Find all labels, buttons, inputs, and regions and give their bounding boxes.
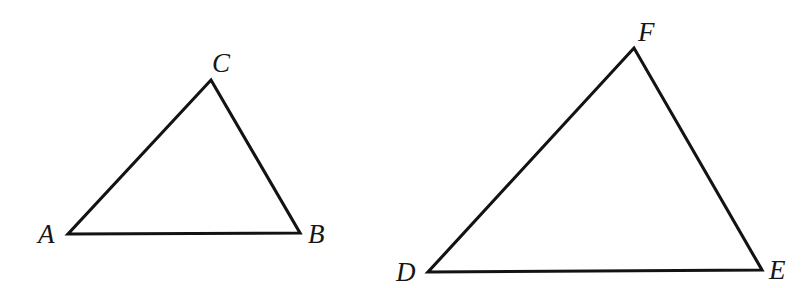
vertex-label-d: D	[395, 257, 416, 287]
geometry-figure: A B C D E F	[0, 0, 812, 288]
vertex-label-a: A	[36, 219, 55, 249]
vertex-label-f: F	[637, 17, 655, 47]
vertex-label-e: E	[768, 255, 786, 285]
vertex-label-b: B	[308, 219, 325, 249]
vertex-label-c: C	[212, 48, 231, 78]
